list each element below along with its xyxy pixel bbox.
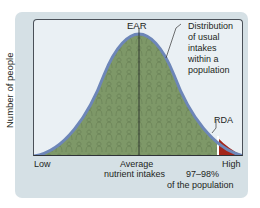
ear-label: EAR — [127, 21, 147, 31]
percent-label: 97–98% — [186, 169, 219, 179]
distribution-label-1: Distribution — [188, 21, 233, 31]
x-axis-mid-label-2: nutrient intakes — [104, 169, 165, 179]
distribution-label-4: within a — [188, 54, 219, 64]
distribution-label-5: population — [188, 65, 230, 75]
distribution-label-3: intakes — [188, 43, 217, 53]
x-axis-mid-label-1: Average — [120, 159, 153, 169]
distribution-label-2: of usual — [188, 32, 220, 42]
rda-label: RDA — [214, 115, 233, 125]
percent-sublabel: of the population — [167, 180, 234, 190]
y-axis-label: Number of people — [4, 52, 15, 128]
distribution-leader-line — [166, 24, 181, 58]
x-axis-high-label: High — [222, 159, 241, 169]
x-axis-low-label: Low — [34, 159, 51, 169]
